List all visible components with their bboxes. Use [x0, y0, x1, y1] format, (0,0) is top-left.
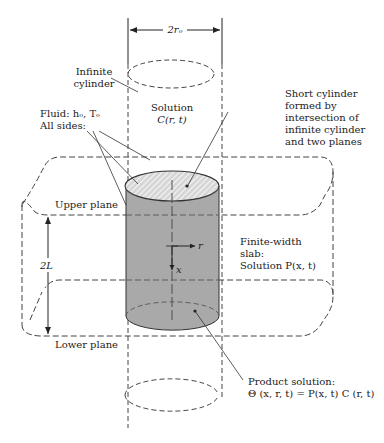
label-slab: Finite-width slab: Solution P(x, t): [240, 236, 316, 272]
label-2r0: 2rₒ: [163, 24, 187, 36]
label-product-solution: Product solution: Θ (x, r, t) = P(x, t) …: [248, 376, 374, 400]
diagram-canvas: 2rₒ Infinite cylinder Solution C(r, t) F…: [0, 0, 384, 443]
label-short-cylinder: Short cylinder formed by intersection of…: [285, 88, 365, 148]
label-upper-plane: Upper plane: [55, 199, 118, 211]
product-marker: [193, 309, 196, 312]
label-solution-c: Solution C(r, t): [150, 102, 194, 126]
label-axis-x: x: [176, 264, 182, 276]
short-cylinder-marker: [185, 184, 188, 187]
label-lower-plane: Lower plane: [55, 339, 118, 351]
short-cylinder: [125, 171, 219, 330]
label-axis-r: r: [198, 240, 203, 252]
label-2L: 2L: [40, 260, 53, 272]
label-infinite-cylinder: Infinite cylinder: [72, 66, 116, 90]
label-fluid: Fluid: hₒ, Tₒ All sides:: [40, 108, 100, 132]
